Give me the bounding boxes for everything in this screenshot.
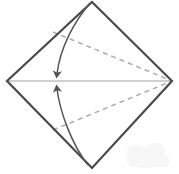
paper-outline [7, 2, 172, 168]
lower-fold-dashed-line [53, 81, 172, 130]
fold-diagram-canvas [0, 0, 179, 174]
origami-figure: Diamond shaped paper with two flaps fold… [0, 0, 179, 174]
upper-fold-arrow [57, 3, 90, 74]
upper-fold-dashed-line [53, 32, 172, 81]
corner-watermark [126, 143, 169, 168]
